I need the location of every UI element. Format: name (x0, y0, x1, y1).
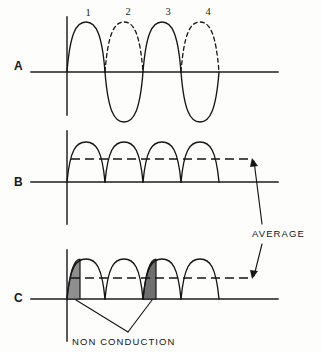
panel-a-halfcycle-2-dashed (105, 22, 143, 72)
average-arrowhead-upper (250, 158, 258, 167)
average-label: AVERAGE (252, 228, 305, 239)
panel-a-halfcycle-2-solid-negative (105, 72, 143, 122)
non-conduction-leader-right (128, 300, 152, 332)
panel-b-hump-4 (181, 142, 219, 182)
average-callout: AVERAGE (250, 158, 305, 279)
panel-c: C (14, 250, 278, 341)
panel-b: B (14, 131, 278, 224)
panel-a-halfcycle-4-solid-negative (181, 72, 219, 122)
cycle-number-1: 1 (85, 7, 90, 18)
average-leader-upper (254, 161, 262, 224)
non-conduction-label: NON CONDUCTION (72, 336, 176, 347)
cycle-number-2: 2 (125, 6, 130, 17)
panel-a-halfcycle-1-solid (67, 22, 105, 72)
cycle-number-4: 4 (205, 6, 211, 17)
rectifier-waveform-figure: 1 2 3 4 A B (0, 0, 321, 352)
average-arrowhead-lower (250, 270, 258, 279)
panel-a-halfcycle-4-dashed (181, 22, 219, 72)
panel-letter-c: C (14, 291, 23, 305)
panel-b-hump-2 (105, 142, 143, 182)
non-conduction-leader-left (76, 300, 128, 332)
shade-region-1 (67, 259, 80, 299)
panel-c-hump-2 (105, 259, 143, 299)
panel-b-hump-3 (143, 142, 181, 182)
panel-a-halfcycle-3-solid (143, 22, 181, 72)
panel-b-hump-1 (67, 142, 105, 182)
panel-c-hump-4 (181, 259, 219, 299)
panel-a: 1 2 3 4 A (14, 6, 278, 122)
non-conduction-callout: NON CONDUCTION (72, 300, 176, 347)
panel-letter-a: A (14, 59, 23, 73)
shade-region-2 (143, 259, 156, 299)
figure-canvas: 1 2 3 4 A B (0, 0, 321, 352)
cycle-number-3: 3 (165, 6, 170, 17)
panel-letter-b: B (14, 175, 23, 189)
